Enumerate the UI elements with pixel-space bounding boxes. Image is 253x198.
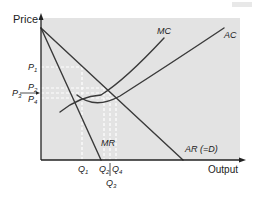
mr-label: MR (101, 138, 115, 148)
y-axis-arrow-icon (39, 13, 44, 20)
q3-label: Q3 (106, 178, 117, 189)
monopoly-diagram: Price Output MC AC MR AR (=D) P1 P2 P3 P… (0, 0, 253, 198)
p4-label: P4 (28, 94, 38, 105)
x-axis-label: Output (208, 164, 238, 175)
p1-label: P1 (28, 62, 37, 73)
artifact-smear (232, 2, 252, 7)
ar-label: AR (=D) (184, 144, 218, 154)
plot-area (41, 18, 240, 160)
mc-label: MC (157, 26, 171, 36)
q4-label: Q4 (112, 164, 123, 175)
p2-label: P2 (28, 82, 38, 93)
p3-label: P3 (12, 88, 22, 99)
ac-label: AC (223, 30, 237, 40)
x-axis-arrow-icon (239, 158, 246, 163)
q2-label: Q2 (99, 164, 110, 175)
y-axis-label: Price (13, 13, 38, 25)
q1-label: Q1 (78, 164, 88, 175)
